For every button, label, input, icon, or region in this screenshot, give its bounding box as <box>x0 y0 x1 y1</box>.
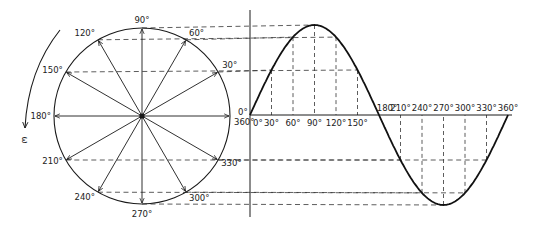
horizontal-projection-150 <box>66 70 358 72</box>
circle-label-120deg: 120° <box>75 28 95 38</box>
wave-tick-label-240: 240° <box>412 103 432 113</box>
phasor-arrow-150 <box>67 73 142 117</box>
rotation-indicator: ω <box>20 30 60 144</box>
wave-tick-label-210: 210° <box>390 103 410 113</box>
wave-tick-label-60: 60° <box>285 118 300 128</box>
horizontal-projection-270 <box>142 204 444 205</box>
wave-tick-label-300: 300° <box>455 103 475 113</box>
omega-symbol: ω <box>20 136 30 143</box>
phasor-arrows <box>55 29 229 203</box>
phasor-arrow-30 <box>142 73 217 117</box>
circle-label-300deg: 300° <box>189 193 209 203</box>
angle-labels: 0°360°30°60°90°120°150°180°210°240°270°3… <box>31 15 519 219</box>
wave-tick-label-150: 150° <box>347 118 367 128</box>
phasor-arrow-240 <box>99 116 143 191</box>
phasor-arrow-330 <box>142 116 217 160</box>
circle-label-270deg: 270° <box>132 209 152 219</box>
circle-label-90deg: 90° <box>134 15 149 25</box>
circle-label-360deg: 360° <box>234 117 254 127</box>
circle-label-0deg: 0° <box>238 107 248 117</box>
circle-label-240deg: 240° <box>75 192 95 202</box>
circle-label-210deg: 210° <box>42 156 62 166</box>
phasor-arrow-60 <box>142 41 186 116</box>
circle-label-30deg: 30° <box>222 60 237 70</box>
wave-tick-label-0: 0° <box>253 118 263 128</box>
wave-tick-label-360: 360° <box>498 103 518 113</box>
wave-tick-label-30: 30° <box>264 118 279 128</box>
circle-label-60deg: 60° <box>189 28 204 38</box>
horizontal-projection-90 <box>142 25 315 28</box>
phasor-arrow-300 <box>142 116 186 191</box>
circle-label-330deg: 330° <box>221 158 241 168</box>
horizontal-projection-120 <box>98 37 336 40</box>
circle-label-180deg: 180° <box>31 111 51 121</box>
phasor-sine-diagram: 0°360°30°60°90°120°150°180°210°240°270°3… <box>0 0 540 226</box>
wave-tick-label-330: 330° <box>476 103 496 113</box>
diagram-stage: 0°360°30°60°90°120°150°180°210°240°270°3… <box>0 0 540 226</box>
wave-tick-label-120: 120° <box>326 118 346 128</box>
circle-label-150deg: 150° <box>42 65 62 75</box>
wave-tick-label-90: 90° <box>307 118 322 128</box>
phasor-arrow-210 <box>67 116 142 160</box>
phasor-arrow-120 <box>99 41 143 116</box>
wave-tick-label-270: 270° <box>433 103 453 113</box>
